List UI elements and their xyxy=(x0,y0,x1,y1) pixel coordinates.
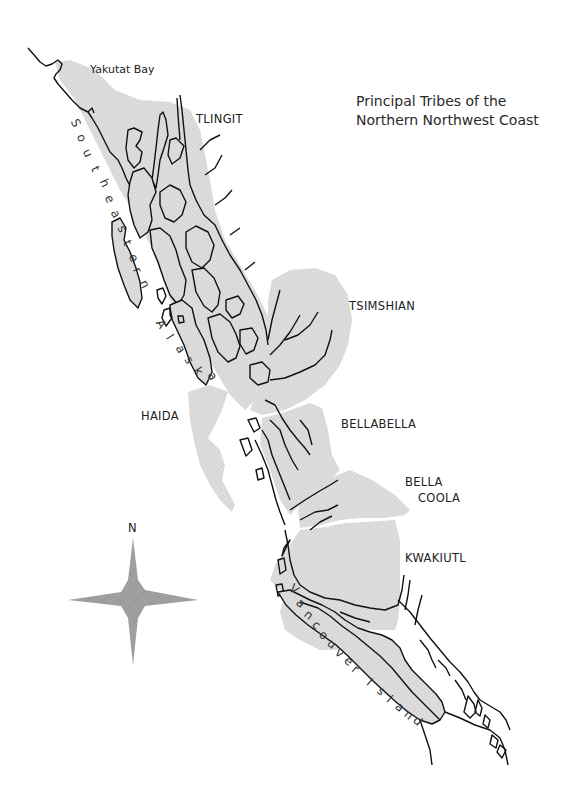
map-title-line2: Northern Northwest Coast xyxy=(356,111,539,130)
territory-haida xyxy=(188,385,235,512)
label-yakutat-bay: Yakutat Bay xyxy=(90,63,155,76)
label-tlingit: TLINGIT xyxy=(196,112,243,126)
label-tsimshian: TSIMSHIAN xyxy=(349,299,415,313)
compass-rose-icon xyxy=(68,538,198,665)
compass-north-label: N xyxy=(128,521,137,535)
label-haida: HAIDA xyxy=(141,409,179,423)
label-bellabella: BELLABELLA xyxy=(341,417,416,431)
label-kwakiutl: KWAKIUTL xyxy=(405,551,466,565)
label-bella: BELLA xyxy=(405,475,443,489)
map-title-line1: Principal Tribes of the xyxy=(356,92,539,111)
map-title: Principal Tribes of the Northern Northwe… xyxy=(356,92,539,130)
map: Principal Tribes of the Northern Northwe… xyxy=(0,0,565,803)
label-coola: COOLA xyxy=(418,491,460,505)
